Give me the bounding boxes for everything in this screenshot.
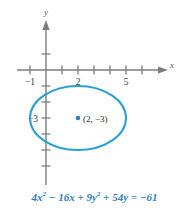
y-axis-label: y (43, 7, 48, 17)
x-tick-label-5: 5 (124, 77, 129, 87)
x-axis-label: x (169, 60, 174, 70)
ellipse-figure: x y −1 2 5 −3 (2, −3) 4x2 − 16x + 9y2 + … (0, 0, 189, 214)
equation-part-b: − 16x + 9y (46, 191, 97, 203)
equation-part-a: 4x (32, 191, 43, 203)
x-axis-arrow-icon (158, 66, 168, 73)
equation-part-c: + 54y = −61 (100, 191, 157, 203)
x-tick-label--1: −1 (25, 77, 35, 87)
center-point-label: (2, −3) (83, 114, 108, 124)
plot-area: x y −1 2 5 −3 (2, −3) (0, 0, 189, 214)
equation-caption: 4x2 − 16x + 9y2 + 54y = −61 (0, 191, 189, 203)
center-point-marker (76, 116, 81, 121)
y-axis-arrow-icon (42, 20, 49, 30)
